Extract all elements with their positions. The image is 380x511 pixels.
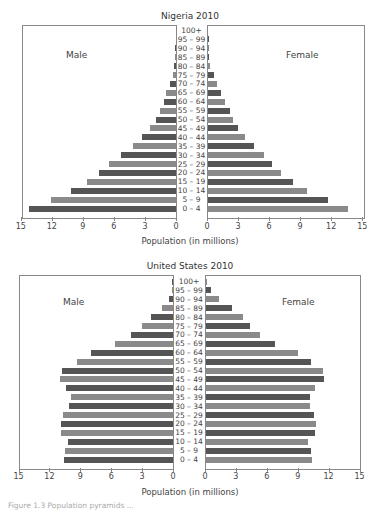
x-tick-mark	[238, 217, 239, 221]
x-tick-label: 6	[104, 222, 124, 231]
female-bar	[208, 117, 233, 123]
age-group-label: 75 – 79	[172, 71, 212, 80]
female-label: Female	[286, 50, 319, 60]
female-bar	[206, 296, 219, 302]
male-bar	[150, 125, 176, 131]
x-tick-label: 12	[319, 472, 339, 481]
female-bar	[206, 457, 312, 463]
x-tick-mark	[83, 217, 84, 221]
x-tick-label: 9	[290, 222, 310, 231]
male-bar	[175, 54, 176, 60]
x-tick-label: 9	[73, 222, 93, 231]
female-bar	[208, 161, 272, 167]
age-group-label: 0 – 4	[169, 455, 209, 464]
chart-title: United States 2010	[0, 261, 380, 271]
age-group-label: 45 – 49	[172, 124, 212, 133]
age-group-label: 20 – 24	[172, 168, 212, 177]
female-label: Female	[282, 297, 315, 307]
age-group-label: 90 – 94	[169, 295, 209, 304]
age-group-label: 35 – 39	[172, 142, 212, 151]
male-bar	[61, 430, 173, 436]
x-tick-label: 0	[197, 222, 217, 231]
female-bar	[208, 45, 209, 51]
x-tick-label: 0	[163, 472, 183, 481]
x-tick-mark	[176, 217, 177, 221]
age-group-label: 80 – 84	[169, 313, 209, 322]
age-group-label: 60 – 64	[169, 348, 209, 357]
x-tick-label: 15	[9, 472, 29, 481]
female-bar	[206, 439, 308, 445]
female-bar	[208, 63, 210, 69]
male-bar	[131, 332, 173, 338]
x-tick-mark	[331, 217, 332, 221]
female-bar	[206, 323, 250, 329]
x-tick-label: 12	[39, 472, 59, 481]
age-group-label: 50 – 54	[169, 366, 209, 375]
age-group-label: 100+	[172, 26, 212, 35]
age-group-label: 40 – 44	[169, 384, 209, 393]
x-tick-label: 3	[226, 472, 246, 481]
x-tick-mark	[114, 217, 115, 221]
female-bar	[208, 197, 328, 203]
female-bar	[206, 394, 310, 400]
male-bar	[60, 376, 173, 382]
female-bar	[208, 125, 238, 131]
male-bar	[164, 99, 176, 105]
male-bar	[91, 350, 173, 356]
age-group-label: 35 – 39	[169, 393, 209, 402]
age-group-label: 15 – 19	[169, 428, 209, 437]
age-group-label: 85 – 89	[172, 53, 212, 62]
x-tick-label: 9	[288, 472, 308, 481]
female-bar	[206, 305, 232, 311]
female-bar	[206, 421, 316, 427]
male-bar	[172, 279, 173, 285]
figure-caption: Figure 1.3 Population pyramids ...	[8, 501, 134, 510]
x-tick-mark	[362, 217, 363, 221]
age-group-label: 60 – 64	[172, 97, 212, 106]
x-tick-mark	[207, 217, 208, 221]
x-tick-label: 15	[350, 472, 370, 481]
male-bar	[65, 448, 173, 454]
male-bar	[175, 45, 176, 51]
age-group-label: 70 – 74	[169, 330, 209, 339]
male-bar	[121, 152, 176, 158]
male-bar	[77, 359, 173, 365]
x-tick-mark	[21, 217, 22, 221]
chart-title: Nigeria 2010	[0, 11, 380, 21]
x-tick-mark	[269, 217, 270, 221]
female-bar	[206, 341, 275, 347]
male-bar	[174, 63, 176, 69]
female-bar	[206, 359, 311, 365]
age-group-label: 40 – 44	[172, 133, 212, 142]
male-bar	[151, 314, 173, 320]
female-bar	[208, 188, 307, 194]
female-bar	[208, 170, 281, 176]
age-group-label: 5 – 9	[172, 195, 212, 204]
age-group-label: 65 – 69	[169, 339, 209, 348]
male-bar	[166, 90, 176, 96]
female-bar	[208, 81, 217, 87]
x-axis-label: Population (in millions)	[0, 487, 380, 497]
male-bar	[66, 385, 173, 391]
age-group-label: 30 – 34	[169, 402, 209, 411]
male-bar	[87, 179, 176, 185]
age-group-label: 75 – 79	[169, 322, 209, 331]
age-group-label: 100+	[169, 277, 209, 286]
x-tick-label: 6	[259, 222, 279, 231]
age-group-label: 25 – 29	[172, 160, 212, 169]
age-group-label: 0 – 4	[172, 204, 212, 213]
male-bar	[71, 394, 173, 400]
female-bar	[206, 314, 243, 320]
male-label: Male	[66, 50, 87, 60]
male-bar	[169, 296, 173, 302]
x-tick-label: 12	[321, 222, 341, 231]
age-group-label: 30 – 34	[172, 151, 212, 160]
female-bar	[208, 72, 214, 78]
age-group-label: 50 – 54	[172, 115, 212, 124]
age-group-label: 80 – 84	[172, 62, 212, 71]
female-bar	[206, 430, 315, 436]
male-bar	[71, 188, 176, 194]
female-bar	[206, 412, 314, 418]
male-bar	[156, 117, 176, 123]
age-group-label: 10 – 14	[172, 186, 212, 195]
